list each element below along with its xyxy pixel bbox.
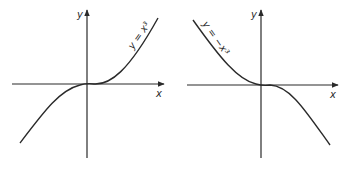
x-axis-label: x [155, 88, 162, 99]
graph-negative-cubic: x y y = −x³ [187, 9, 338, 158]
graph-cubic: x y y = x³ [12, 9, 164, 158]
x-axis-label: x [329, 89, 336, 100]
y-axis-label: y [76, 9, 84, 20]
y-axis-label: y [250, 9, 258, 20]
diagram: x y y = x³ x y y = −x³ [0, 0, 343, 170]
